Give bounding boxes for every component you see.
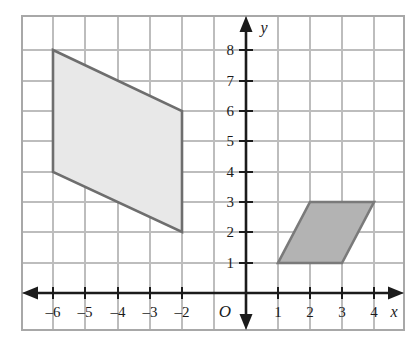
x-tick-label-minus-6: –6 [46, 305, 61, 320]
x-axis-label: x [390, 304, 397, 320]
x-tick-label-2: 2 [306, 305, 314, 320]
origin-label: O [219, 303, 231, 320]
graph-canvas [0, 0, 415, 349]
x-tick-label-minus-4: –4 [111, 305, 126, 320]
coordinate-plane-figure: 8 7 6 5 4 3 2 1 –6 –5 –4 –3 –2 1 2 3 4 O… [0, 0, 415, 349]
y-tick-label-1: 1 [227, 256, 235, 271]
y-tick-label-4: 4 [227, 165, 235, 180]
x-tick-label-1: 1 [274, 305, 282, 320]
y-tick-label-6: 6 [227, 104, 235, 119]
x-tick-label-minus-3: –3 [143, 305, 158, 320]
y-tick-label-2: 2 [227, 225, 235, 240]
y-tick-label-8: 8 [227, 43, 235, 58]
y-axis-label: y [260, 20, 267, 36]
y-tick-label-7: 7 [227, 74, 235, 89]
x-tick-label-3: 3 [338, 305, 346, 320]
x-tick-label-minus-5: –5 [78, 305, 93, 320]
x-tick-label-minus-2: –2 [175, 305, 190, 320]
x-tick-label-4: 4 [370, 305, 378, 320]
y-tick-label-5: 5 [227, 134, 235, 149]
y-tick-label-3: 3 [227, 195, 235, 210]
